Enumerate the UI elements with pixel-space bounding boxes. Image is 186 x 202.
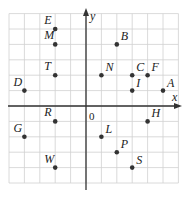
coordinate-plane: x y 0 EMTDBNCFIARGWHLPS bbox=[0, 0, 186, 202]
point-label: L bbox=[104, 122, 112, 136]
points: EMTDBNCFIARGWHLPS bbox=[12, 13, 175, 170]
point-label: R bbox=[43, 105, 52, 119]
point-label: N bbox=[104, 60, 114, 74]
point-marker bbox=[161, 88, 166, 93]
point-marker bbox=[115, 42, 120, 47]
point-label: D bbox=[12, 75, 22, 89]
point-label: P bbox=[120, 137, 129, 151]
point-marker bbox=[53, 165, 58, 170]
point-marker bbox=[53, 73, 58, 78]
origin-label: 0 bbox=[89, 110, 95, 122]
point-marker bbox=[53, 119, 58, 124]
point-label: F bbox=[151, 60, 160, 74]
point-marker bbox=[130, 73, 135, 78]
grid-lines bbox=[9, 14, 178, 183]
point-marker bbox=[22, 88, 27, 93]
point-marker bbox=[53, 42, 58, 47]
point-label: B bbox=[121, 29, 129, 43]
point-label: M bbox=[43, 28, 55, 42]
point-label: W bbox=[44, 152, 55, 166]
point-label: G bbox=[13, 121, 22, 135]
point-marker bbox=[99, 135, 104, 140]
point-label: S bbox=[136, 153, 142, 167]
point-label: E bbox=[43, 13, 52, 27]
point-label: C bbox=[136, 60, 145, 74]
point-marker bbox=[115, 150, 120, 155]
x-axis-label: x bbox=[171, 90, 178, 104]
point-marker bbox=[145, 119, 150, 124]
point-label: T bbox=[44, 59, 52, 73]
point-label: I bbox=[135, 76, 141, 90]
point-marker bbox=[145, 73, 150, 78]
point-marker bbox=[99, 73, 104, 78]
y-axis-label: y bbox=[89, 9, 96, 23]
y-axis-arrow-icon bbox=[83, 8, 89, 16]
point-marker bbox=[22, 135, 27, 140]
point-label: A bbox=[166, 76, 175, 90]
axes: x y 0 bbox=[8, 8, 182, 190]
point-marker bbox=[130, 88, 135, 93]
point-label: H bbox=[151, 106, 162, 120]
point-marker bbox=[130, 165, 135, 170]
